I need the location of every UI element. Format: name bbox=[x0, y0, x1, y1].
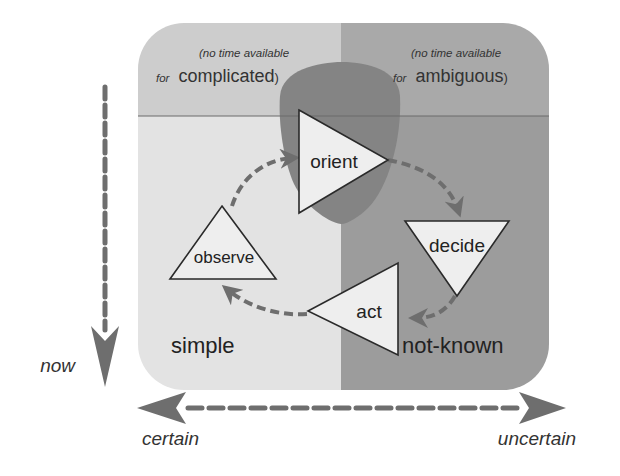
svg-text:decide: decide bbox=[429, 235, 485, 256]
note-ambiguous: (no time available for ambiguous) bbox=[393, 47, 508, 86]
svg-text:(no time available: (no time available bbox=[411, 47, 501, 59]
label-not-known: not-known bbox=[402, 333, 504, 358]
arrow-left-icon bbox=[137, 392, 186, 424]
label-now: now bbox=[40, 355, 76, 376]
svg-text:observe: observe bbox=[194, 248, 254, 267]
svg-text:for complicated): for complicated) bbox=[156, 66, 279, 86]
svg-text:act: act bbox=[356, 301, 382, 322]
svg-text:(no time available: (no time available bbox=[199, 47, 289, 59]
label-simple: simple bbox=[171, 333, 235, 358]
label-uncertain: uncertain bbox=[498, 428, 576, 449]
arrow-down-icon bbox=[91, 326, 119, 387]
svg-text:orient: orient bbox=[310, 151, 358, 172]
arrow-right-icon bbox=[519, 392, 566, 424]
label-certain: certain bbox=[142, 428, 199, 449]
certainty-axis: certain uncertain bbox=[137, 392, 576, 449]
svg-text:for ambiguous): for ambiguous) bbox=[393, 66, 508, 86]
time-axis: now bbox=[40, 87, 119, 387]
ooda-diagram: (no time available for complicated) (no … bbox=[0, 0, 620, 476]
